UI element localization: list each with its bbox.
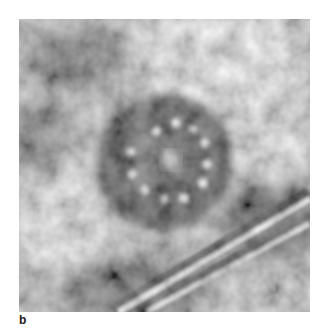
panel-label: b: [19, 313, 26, 327]
micrograph-image: [19, 19, 310, 312]
micrograph-svg: [19, 19, 310, 312]
